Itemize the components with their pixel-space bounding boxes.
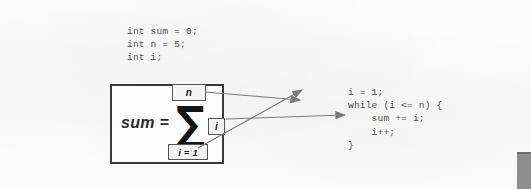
- summation-formula-box: sum = ∑ n i i = 1: [110, 84, 224, 164]
- upper-limit-box: n: [172, 84, 206, 101]
- figure-canvas: int sum = 0; int n = 5; int i; sum = ∑ n…: [0, 0, 531, 189]
- summand-box: i: [208, 118, 225, 135]
- sigma-operator-icon: ∑: [176, 100, 205, 146]
- code-block-declarations: int sum = 0; int n = 5; int i;: [127, 25, 198, 65]
- code-block-loop: i = 1; while (i <= n) { sum += i; i++; }: [348, 86, 442, 152]
- arrow-summand-to-accumulation: [226, 115, 345, 119]
- page-edge-bar: [517, 152, 531, 189]
- mapping-arrow-layer: [0, 0, 531, 189]
- paper-texture: [0, 0, 531, 189]
- lower-limit-box: i = 1: [168, 144, 208, 160]
- sum-equals-label: sum =: [121, 114, 169, 132]
